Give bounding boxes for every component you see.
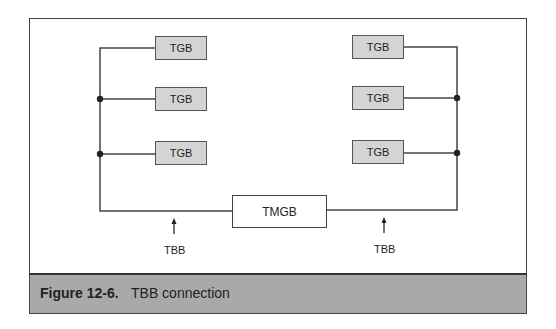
figure-number: Figure 12-6. bbox=[40, 285, 119, 301]
arrow-up-icon bbox=[382, 217, 387, 223]
tgb-label: TGB bbox=[367, 92, 390, 104]
tgb-label: TGB bbox=[170, 93, 193, 105]
tbb-label-right: TBB bbox=[374, 243, 395, 255]
tbb-label-left: TBB bbox=[164, 244, 185, 256]
tgb-box-left-3: TGB bbox=[155, 141, 207, 165]
tmgb-label: TMGB bbox=[262, 205, 297, 219]
tmgb-box: TMGB bbox=[232, 195, 327, 228]
junction-dot bbox=[97, 151, 103, 157]
tgb-box-right-1: TGB bbox=[352, 35, 404, 59]
junction-dot bbox=[97, 96, 103, 102]
tgb-box-right-3: TGB bbox=[352, 140, 404, 164]
junction-dot bbox=[454, 95, 460, 101]
right-bus-line bbox=[326, 47, 457, 210]
tgb-label: TGB bbox=[367, 146, 390, 158]
tgb-box-left-2: TGB bbox=[155, 87, 207, 111]
figure-caption-bar: Figure 12-6. TBB connection bbox=[29, 273, 527, 314]
tgb-label: TGB bbox=[170, 42, 193, 54]
tgb-label: TGB bbox=[170, 147, 193, 159]
tgb-label: TGB bbox=[367, 41, 390, 53]
left-bus-line bbox=[100, 48, 232, 211]
junction-dot bbox=[454, 150, 460, 156]
figure-title: TBB connection bbox=[131, 285, 230, 301]
tgb-box-right-2: TGB bbox=[352, 86, 404, 110]
tgb-box-left-1: TGB bbox=[155, 36, 207, 60]
arrow-up-icon bbox=[172, 218, 177, 224]
